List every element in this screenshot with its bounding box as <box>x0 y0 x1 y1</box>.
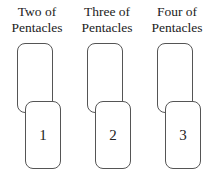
card-group-2: Three of Pentacles 2 <box>71 0 143 178</box>
card-number: 2 <box>109 127 117 144</box>
card-number: 3 <box>179 127 187 144</box>
card-front: 2 <box>95 101 131 169</box>
card-label-line1: Three of <box>71 4 143 20</box>
card-group-3: Four of Pentacles 3 <box>141 0 213 178</box>
card-label-line2: Pentacles <box>1 20 73 36</box>
card-label: Two of Pentacles <box>1 4 73 36</box>
card-label: Three of Pentacles <box>71 4 143 36</box>
card-group-1: Two of Pentacles 1 <box>1 0 73 178</box>
card-label: Four of Pentacles <box>141 4 213 36</box>
card-front: 3 <box>165 101 201 169</box>
card-number: 1 <box>39 127 47 144</box>
card-label-line1: Four of <box>141 4 213 20</box>
card-label-line2: Pentacles <box>71 20 143 36</box>
card-front: 1 <box>25 101 61 169</box>
card-label-line2: Pentacles <box>141 20 213 36</box>
card-label-line1: Two of <box>1 4 73 20</box>
